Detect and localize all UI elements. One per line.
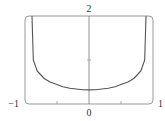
x-zero-label: 0 (87, 107, 92, 118)
chart: 2 −1 0 1 (0, 0, 165, 121)
x-max-label: 1 (158, 98, 163, 109)
y-max-label: 2 (87, 3, 92, 14)
x-min-label: −1 (8, 98, 19, 109)
